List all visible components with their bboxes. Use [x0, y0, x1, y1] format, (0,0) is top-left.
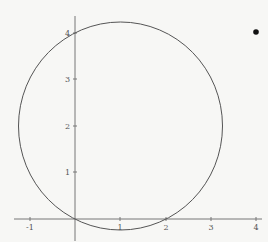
circle-curve [19, 22, 223, 230]
x-tick-label: 1 [117, 223, 122, 232]
plot-area: -1 1 2 3 4 1 2 3 4 [0, 0, 268, 242]
x-tick-label: 4 [253, 223, 258, 232]
x-tick-label: -1 [26, 223, 34, 232]
y-tick-label: 1 [65, 168, 70, 177]
data-point [253, 29, 259, 35]
x-tick-label: 3 [208, 223, 213, 232]
x-tick-label: 2 [163, 223, 168, 232]
y-tick-label: 3 [65, 75, 70, 84]
y-tick-label: 2 [65, 122, 70, 131]
y-tick-labels: 1 2 3 4 [65, 29, 70, 177]
